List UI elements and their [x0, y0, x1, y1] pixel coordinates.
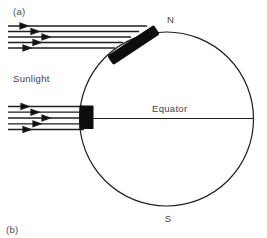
- ray-arrowhead-icon: [21, 104, 29, 110]
- diagram-canvas: (a) Sunlight N Equator S (b): [0, 0, 267, 238]
- ray-arrowhead-icon: [33, 121, 41, 127]
- equator-label: Equator: [152, 103, 187, 114]
- ray-arrowhead-icon: [42, 34, 50, 40]
- ray-arrowhead-icon: [31, 29, 39, 35]
- ray-arrowhead-icon: [42, 115, 50, 121]
- equatorial-sunlight-rays: [8, 104, 84, 133]
- panel-b-label: (b): [6, 224, 19, 235]
- panel-a-label: (a): [13, 6, 26, 17]
- north-pole-label: N: [167, 14, 174, 25]
- ray-arrowhead-icon: [23, 127, 31, 133]
- ray-arrowhead-icon: [33, 40, 41, 46]
- figure-sunlight-on-earth: (a) Sunlight N Equator S (b): [0, 0, 267, 238]
- ray-arrowhead-icon: [20, 23, 28, 29]
- ray-arrowhead-icon: [31, 109, 39, 115]
- south-pole-label: S: [165, 213, 172, 224]
- ray-arrowhead-icon: [23, 45, 31, 51]
- sunlight-label: Sunlight: [13, 73, 50, 84]
- equator-illumination-patch: [80, 106, 94, 130]
